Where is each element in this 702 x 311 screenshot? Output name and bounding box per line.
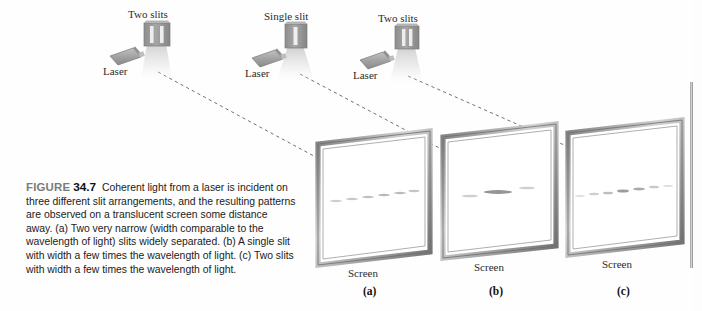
beam-cone-a — [141, 44, 172, 78]
slit-plate-b — [285, 22, 307, 49]
figure-number: 34.7 — [73, 180, 96, 194]
beam-cone-c — [390, 48, 423, 82]
figure-34-7: Two slits Single slit Two slits Laser La… — [0, 0, 702, 311]
laser-body-c — [360, 51, 395, 70]
laser-body-b — [252, 49, 287, 68]
beam-cone-b — [277, 46, 314, 80]
page-edge-margin — [694, 0, 702, 311]
scan-edge-artifact — [690, 82, 693, 268]
slit-label-c: Two slits — [378, 12, 418, 24]
panel-letter-c: (c) — [617, 285, 630, 297]
slit-b-1 — [294, 27, 298, 45]
laser-label-a: Laser — [103, 65, 127, 77]
slit-c-1 — [402, 29, 405, 46]
slit-a-2 — [160, 26, 164, 43]
screen-b — [443, 124, 556, 258]
slit-label-a: Two slits — [128, 8, 168, 20]
panel-letter-b: (b) — [489, 285, 503, 297]
screen-label-b: Screen — [474, 261, 504, 273]
slit-plate-c — [395, 24, 419, 50]
ray-a — [158, 72, 336, 168]
figure-caption: FIGURE 34.7 Coherent light from a laser … — [26, 181, 296, 276]
laser-body-a — [110, 47, 145, 66]
slit-c-2 — [409, 29, 412, 46]
screen-label-c: Screen — [602, 258, 632, 270]
figure-word: FIGURE — [26, 181, 70, 193]
laser-label-b: Laser — [245, 67, 269, 79]
panel-letter-a: (a) — [363, 285, 376, 297]
figure-caption-text: Coherent light from a laser is incident … — [26, 182, 296, 275]
screen-a — [318, 131, 430, 265]
slit-a-1 — [150, 26, 154, 43]
laser-label-c: Laser — [353, 69, 377, 81]
screen-label-a: Screen — [348, 267, 378, 279]
slit-label-b: Single slit — [264, 10, 308, 22]
slit-plate-a — [144, 21, 170, 47]
screen-c — [568, 120, 682, 255]
